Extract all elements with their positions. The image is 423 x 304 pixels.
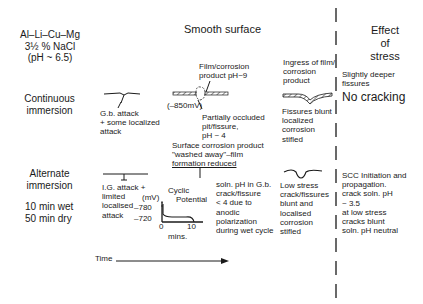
time-arrow-icon (116, 258, 229, 264)
low-stress-crack-icon (284, 170, 322, 178)
cyclic-potential-chart (161, 202, 203, 222)
occluded-pit-icon (173, 81, 228, 109)
gb-attack-surface-icon (104, 93, 140, 108)
blunt-fissure-icon (283, 93, 332, 104)
diagram-graphics (0, 0, 423, 304)
ig-attack-surface-icon (103, 174, 148, 180)
